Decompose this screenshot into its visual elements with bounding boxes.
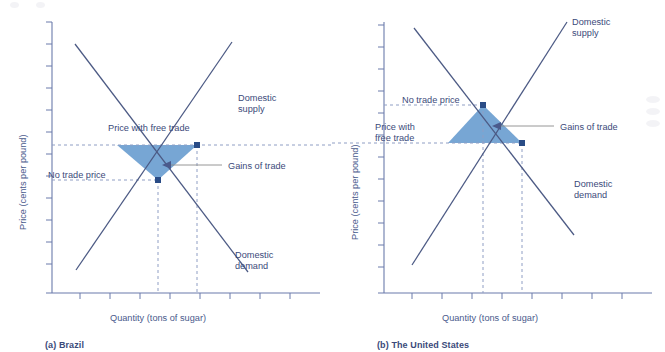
y-axis-ticks (378, 25, 384, 267)
y-axis-title: Price (cents per pound) (18, 135, 28, 231)
gains-of-trade-label: Gains of trade (560, 122, 618, 132)
figure-root: Price with free trade No trade price Gai… (0, 0, 665, 352)
domestic-demand-curve (414, 28, 574, 235)
no-trade-equilibrium-marker (155, 177, 161, 183)
price-with-free-trade-label-line2: free trade (375, 133, 414, 143)
gains-of-trade-region (117, 145, 197, 180)
domestic-demand-curve (75, 44, 248, 272)
y-axis-ticks (46, 22, 52, 264)
no-trade-price-label: No trade price (48, 170, 106, 180)
panel-caption-usa: (b) The United States (377, 340, 469, 350)
no-trade-equilibrium-marker (480, 102, 486, 108)
x-axis-title: Quantity (tons of sugar) (110, 313, 206, 323)
free-trade-point-marker (519, 140, 525, 146)
brazil-chart-svg: Price with free trade No trade price Gai… (0, 0, 333, 335)
panel-usa: No trade price Price with free trade Gai… (332, 0, 665, 352)
domestic-supply-label-line2: supply (572, 28, 599, 38)
x-axis-ticks (412, 293, 622, 299)
price-with-free-trade-label: Price with free trade (108, 123, 190, 133)
domestic-supply-label-line1: Domestic (572, 17, 611, 27)
panel-caption-brazil: (a) Brazil (45, 340, 84, 350)
domestic-demand-label-line1: Domestic (574, 179, 613, 189)
domestic-demand-label-line2: demand (235, 261, 268, 271)
gains-of-trade-label: Gains of trade (228, 161, 286, 171)
free-trade-point-marker (194, 142, 200, 148)
domestic-supply-label-line1: Domestic (238, 93, 277, 103)
panel-brazil: Price with free trade No trade price Gai… (0, 0, 333, 352)
usa-chart-svg: No trade price Price with free trade Gai… (332, 0, 665, 335)
x-axis-title: Quantity (tons of sugar) (442, 313, 538, 323)
no-trade-price-label: No trade price (402, 95, 460, 105)
y-axis-title: Price (cents per pound) (350, 145, 360, 241)
x-axis-ticks (80, 293, 290, 299)
price-with-free-trade-label-line1: Price with (375, 122, 415, 132)
domestic-demand-label-line1: Domestic (235, 250, 274, 260)
domestic-demand-label-line2: demand (574, 190, 607, 200)
domestic-supply-label-line2: supply (238, 104, 265, 114)
